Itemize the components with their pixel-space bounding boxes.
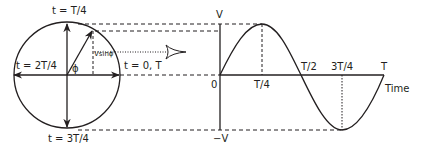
label-bottom: t = 3T/4 bbox=[48, 133, 89, 144]
phasor-arrow bbox=[67, 31, 92, 75]
label-t-full: T bbox=[380, 61, 388, 72]
sine-curve bbox=[220, 24, 384, 130]
label-time: Time bbox=[384, 83, 409, 94]
phasor-sine-diagram: t = T/4 t = 2T/4 t = 0, T t = 3T/4 ϕ Vsi… bbox=[0, 0, 422, 151]
label-left: t = 2T/4 bbox=[16, 60, 57, 71]
label-top: t = T/4 bbox=[52, 5, 87, 16]
label-projection: Vsinϕ bbox=[94, 50, 114, 58]
label-t-quarter: T/4 bbox=[253, 79, 270, 90]
label-t-three-quarter: 3T/4 bbox=[331, 61, 353, 72]
label-angle: ϕ bbox=[72, 63, 79, 74]
label-t-half: T/2 bbox=[300, 61, 317, 72]
eye-icon bbox=[166, 45, 186, 59]
label-vmax: V bbox=[216, 9, 223, 20]
label-right: t = 0, T bbox=[124, 60, 162, 71]
label-origin: 0 bbox=[211, 79, 217, 90]
label-vmin: −V bbox=[213, 133, 228, 144]
